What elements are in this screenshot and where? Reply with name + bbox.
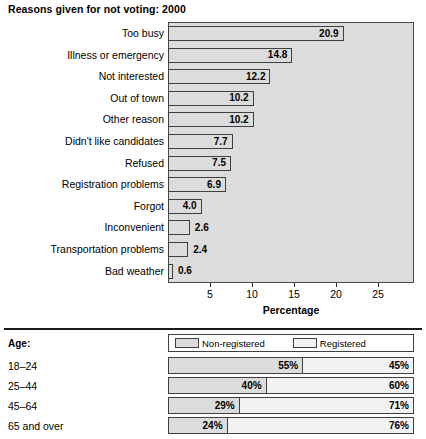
bar-chart-row: Other reason10.2 [0,110,426,132]
bar-value-label: 4.0 [168,200,197,211]
bar-value-label: 7.7 [168,136,228,147]
stacked-segment-registered: 45% [303,358,413,373]
bar-chart-row: Forgot4.0 [0,197,426,219]
stacked-segment-non-registered: 40% [169,378,267,393]
x-axis-tick-mark [210,283,211,287]
bar-category-label: Too busy [122,27,164,39]
bar-chart-row: Inconvenient2.6 [0,218,426,240]
x-axis-tick-mark [294,283,295,287]
age-table-row: 18–2455%45% [0,357,426,377]
stacked-segment-registered: 76% [228,418,413,433]
stacked-segment-non-registered: 24% [169,418,228,433]
stacked-bar: 29%71% [168,397,414,414]
bar-category-label: Out of town [110,92,164,104]
bar-chart-row: Didn't like candidates7.7 [0,132,426,154]
legend-entry-registered: Registered [293,338,366,349]
bar-value-label: 14.8 [168,49,287,60]
bar [168,242,188,257]
stacked-bar: 55%45% [168,357,414,374]
legend-swatch-non-registered [175,338,199,348]
bar-category-label: Transportation problems [51,243,164,255]
bar-chart-row: Transportation problems2.4 [0,240,426,262]
x-axis-tick-label: 20 [321,288,351,300]
x-axis-tick-mark [378,283,379,287]
bar-category-label: Forgot [134,200,164,212]
bar-value-label: 6.9 [168,179,221,190]
x-axis-title: Percentage [168,304,414,316]
bar-value-label: 2.4 [193,244,207,255]
stacked-bar: 40%60% [168,377,414,394]
section-divider [4,328,422,330]
stacked-segment-registered: 60% [267,378,413,393]
bar-category-label: Bad weather [105,265,164,277]
x-axis-tick-label: 15 [279,288,309,300]
bar-value-label: 20.9 [168,28,339,39]
bar-chart-row: Too busy20.9 [0,24,426,46]
bar-chart-row: Bad weather0.6 [0,262,426,284]
bar-category-label: Other reason [103,113,164,125]
bar [168,264,173,279]
bar-value-label: 2.6 [195,222,209,233]
x-axis-tick-label: 25 [363,288,393,300]
bar-category-label: Illness or emergency [67,49,164,61]
stacked-segment-non-registered: 55% [169,358,303,373]
legend-label-registered: Registered [320,338,366,349]
age-group-label: 25–44 [8,380,37,392]
bar-value-label: 0.6 [178,265,192,276]
bar [168,220,190,235]
x-axis-tick-label: 10 [237,288,267,300]
bar-chart-row: Registration problems6.9 [0,175,426,197]
stacked-segment-non-registered: 29% [169,398,240,413]
bar-chart-row: Out of town10.2 [0,89,426,111]
bar-category-label: Not interested [99,70,164,82]
bar-category-label: Didn't like candidates [65,135,164,147]
legend-label-non-registered: Non-registered [202,338,265,349]
age-group-label: 18–24 [8,360,37,372]
age-table-row: 25–4440%60% [0,377,426,397]
age-table-row: 45–6429%71% [0,397,426,417]
bar-category-label: Refused [125,157,164,169]
stacked-bar: 24%76% [168,417,414,434]
bar-chart-row: Not interested12.2 [0,67,426,89]
x-axis-tick-mark [336,283,337,287]
bar-chart-row: Refused7.5 [0,154,426,176]
legend-entry-non-registered: Non-registered [175,338,265,349]
bar-value-label: 12.2 [168,71,265,82]
legend-swatch-registered [293,338,317,348]
bar-category-label: Registration problems [62,178,164,190]
x-axis-tick-mark [252,283,253,287]
age-table-row: 65 and over24%76% [0,417,426,437]
age-column-header: Age: [8,338,30,349]
bar-chart-row: Illness or emergency14.8 [0,46,426,68]
legend: Non-registered Registered [168,334,414,352]
bar-category-label: Inconvenient [104,221,164,233]
stacked-segment-registered: 71% [240,398,413,413]
bar-value-label: 10.2 [168,92,249,103]
x-axis-tick-label: 5 [195,288,225,300]
page-title: Reasons given for not voting: 2000 [8,3,186,15]
age-group-label: 45–64 [8,400,37,412]
bar-value-label: 7.5 [168,157,226,168]
age-group-label: 65 and over [8,420,63,432]
bar-value-label: 10.2 [168,114,249,125]
